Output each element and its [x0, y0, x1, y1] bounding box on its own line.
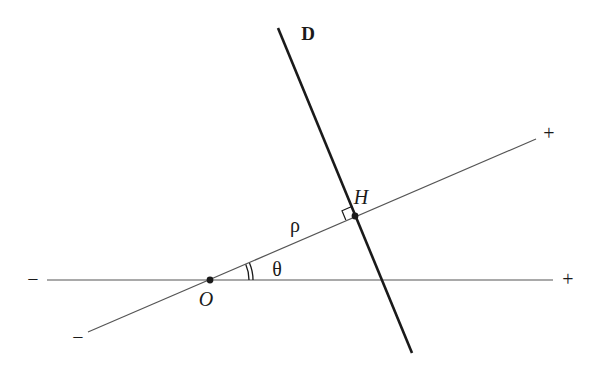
horizontal-axis-positive-label: +: [562, 268, 573, 290]
point-h-dot: [352, 213, 359, 220]
theta-label: θ: [272, 258, 282, 280]
rho-label: ρ: [290, 214, 300, 237]
line-d-label: D: [301, 23, 315, 44]
point-o-dot: [207, 277, 214, 284]
horizontal-axis-negative-label: −: [27, 268, 38, 290]
oblique-axis-positive-label: +: [543, 122, 554, 144]
point-o-label: O: [199, 288, 213, 310]
point-h-label: H: [353, 186, 370, 208]
background: [0, 0, 595, 369]
oblique-axis-negative-label: −: [72, 326, 83, 348]
diagram-canvas: − + − + D O H ρ θ: [0, 0, 595, 369]
